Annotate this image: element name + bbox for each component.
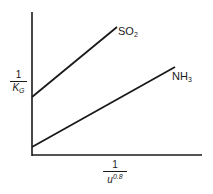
x-label-den-sup: 0.8 [113,173,123,180]
so2-line [32,27,117,97]
nh3-label: NH3 [172,71,192,83]
so2-label: SO2 [118,26,138,38]
x-axis-label: 1 u0.8 [103,160,127,185]
nh3-label-sub: 3 [188,76,192,83]
nh3-label-main: NH [172,70,188,82]
x-label-denominator: u0.8 [103,172,127,185]
so2-label-sub: 2 [134,31,138,38]
so2-label-main: SO [118,25,134,37]
y-label-numerator: 1 [10,70,27,81]
y-label-denominator: KG [10,82,27,94]
y-label-den-sub: G [19,87,24,94]
x-label-numerator: 1 [103,160,127,171]
y-axis-label: 1 KG [10,70,27,94]
